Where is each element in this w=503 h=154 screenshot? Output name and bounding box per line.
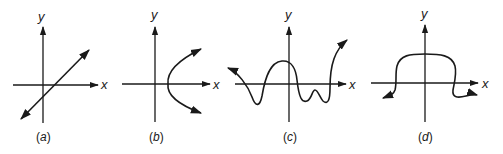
panel-caption: (a): [36, 130, 51, 144]
wave-curve: [228, 40, 347, 104]
y-axis-label: y: [284, 7, 293, 22]
x-axis-label: x: [348, 77, 356, 92]
panel-caption: (d): [418, 130, 433, 144]
x-axis-label: x: [100, 77, 108, 92]
y-axis-label: y: [150, 7, 159, 22]
panel-caption: (c): [283, 130, 297, 144]
panel-a: y x (a): [13, 9, 108, 144]
panel-c: y x (c): [228, 7, 356, 144]
y-axis-label: y: [420, 6, 429, 21]
x-axis-label: x: [481, 76, 489, 91]
y-axis-label: y: [37, 9, 46, 24]
graphs-figure: y x (a) y x (b) y x (c) y x (d): [0, 0, 503, 154]
plateau-curve: [383, 54, 477, 98]
x-axis-label: x: [212, 77, 220, 92]
parabola-curve: [168, 49, 201, 113]
panel-caption: (b): [149, 130, 164, 144]
panel-d: y x (d): [371, 6, 489, 144]
panel-b: y x (b): [122, 7, 220, 144]
